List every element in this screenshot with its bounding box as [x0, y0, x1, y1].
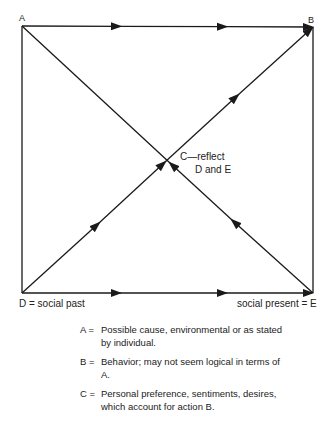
legend-text: Possible cause, environmental or as stat…	[101, 323, 291, 349]
corner-label-a: A	[19, 12, 25, 24]
center-label-de: D and E	[195, 164, 231, 176]
legend-item-c: C = Personal preference, sentiments, des…	[80, 387, 291, 413]
edge-d-b	[22, 223, 99, 293]
legend-key: A =	[80, 323, 101, 349]
legend: A = Possible cause, environmental or as …	[80, 323, 291, 419]
center-label-c: C—reflect	[180, 151, 224, 163]
label-e-social-present: social present = E	[237, 298, 317, 310]
legend-key: B =	[80, 355, 101, 381]
corner-label-b: B	[308, 14, 314, 26]
edge-e-a	[232, 220, 313, 293]
legend-text: Personal preference, sentiments, desires…	[101, 387, 291, 413]
legend-item-b: B = Behavior; may not seem logical in te…	[80, 355, 291, 381]
legend-item-a: A = Possible cause, environmental or as …	[80, 323, 291, 349]
label-d-social-past: D = social past	[19, 298, 85, 310]
legend-text: Behavior; may not seem logical in terms …	[101, 355, 291, 381]
legend-key: C =	[80, 387, 101, 413]
